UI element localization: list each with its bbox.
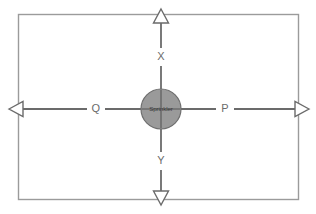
arrowhead-left-icon [9, 102, 23, 117]
axis-label-x: X [157, 50, 165, 62]
sprinkler-axis-diagram: Sprinkler X P Q Y [0, 0, 316, 214]
diagram-canvas: Sprinkler X P Q Y [0, 0, 316, 214]
axis-label-p: P [221, 102, 229, 114]
arrowhead-down-icon [154, 191, 169, 205]
sprinkler-node-label: Sprinkler [149, 105, 173, 112]
axis-label-y: Y [157, 154, 165, 166]
axis-label-q: Q [92, 102, 101, 114]
arrowhead-right-icon [295, 102, 309, 117]
arrowhead-up-icon [154, 9, 169, 23]
